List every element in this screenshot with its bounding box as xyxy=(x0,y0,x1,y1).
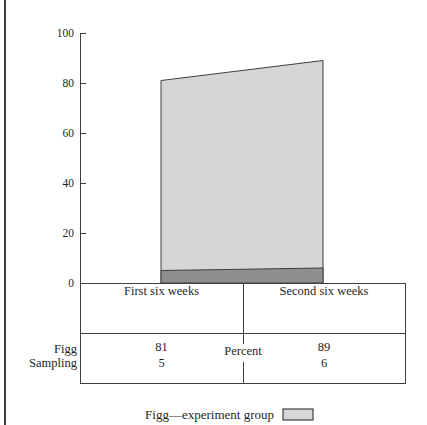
legend-swatch xyxy=(283,409,313,420)
cell-sampling-first: 5 xyxy=(80,356,243,370)
unit-label: Percent xyxy=(202,344,284,358)
row-label-sampling: Sampling xyxy=(0,356,77,370)
cell-sampling-second: 6 xyxy=(243,356,405,370)
y-tick-label: 40 xyxy=(34,176,74,191)
table-header-first-six-weeks: First six weeks xyxy=(80,284,243,298)
row-label-figg: Figg xyxy=(0,342,77,356)
y-tick-label: 20 xyxy=(34,226,74,241)
table-header-second-six-weeks: Second six weeks xyxy=(243,284,405,298)
y-tick-label: 0 xyxy=(34,276,74,291)
y-tick-label: 60 xyxy=(34,126,74,141)
sampling-area xyxy=(161,268,323,283)
y-tick-label: 80 xyxy=(34,76,74,91)
y-tick-label: 100 xyxy=(34,26,74,41)
figg-area xyxy=(161,61,323,284)
figure: 020406080100 First six weeks Second six … xyxy=(0,0,427,425)
legend-label: Figg—experiment group xyxy=(94,408,274,422)
